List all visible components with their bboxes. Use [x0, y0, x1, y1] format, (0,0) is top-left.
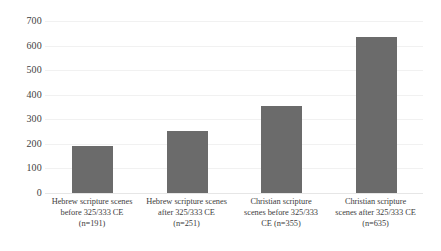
- y-tick-label: 200: [0, 139, 42, 149]
- bar-chart: 700 600 500 400 300 200 100 0 Hebrew scr…: [0, 0, 441, 251]
- category-label-line: (n=191): [44, 218, 140, 229]
- category-label-line: scenes after 325/333 CE: [328, 207, 424, 218]
- y-tick-label: 300: [0, 114, 42, 124]
- category-label-line: Hebrew scripture scenes: [139, 196, 235, 207]
- y-tick-label: 100: [0, 163, 42, 173]
- bar-hebrew-before[interactable]: [72, 146, 113, 193]
- category-label-line: scenes before 325/333: [233, 207, 329, 218]
- category-label-line: CE (n=355): [233, 218, 329, 229]
- category-label-hebrew-after: Hebrew scripture scenes after 325/333 CE…: [139, 196, 235, 230]
- y-tick-label: 700: [0, 16, 42, 26]
- category-label-christian-before: Christian scripture scenes before 325/33…: [233, 196, 329, 230]
- bars-layer: [45, 21, 423, 193]
- x-axis-category-labels: Hebrew scripture scenes before 325/333 C…: [45, 196, 423, 251]
- bar-christian-before[interactable]: [261, 106, 302, 193]
- category-label-line: Hebrew scripture scenes: [44, 196, 140, 207]
- category-label-hebrew-before: Hebrew scripture scenes before 325/333 C…: [44, 196, 140, 230]
- gridline-baseline-0: [45, 193, 423, 194]
- bar-christian-after[interactable]: [356, 37, 397, 193]
- y-tick-label: 400: [0, 90, 42, 100]
- category-label-line: Christian scripture: [328, 196, 424, 207]
- category-label-christian-after: Christian scripture scenes after 325/333…: [328, 196, 424, 230]
- y-axis: 700 600 500 400 300 200 100 0: [0, 21, 42, 193]
- y-tick-label: 0: [0, 188, 42, 198]
- category-label-line: (n=635): [328, 218, 424, 229]
- y-tick-label: 600: [0, 41, 42, 51]
- y-tick-label: 500: [0, 65, 42, 75]
- category-label-line: (n=251): [139, 218, 235, 229]
- category-label-line: after 325/333 CE: [139, 207, 235, 218]
- category-label-line: before 325/333 CE: [44, 207, 140, 218]
- bar-hebrew-after[interactable]: [167, 131, 208, 193]
- category-label-line: Christian scripture: [233, 196, 329, 207]
